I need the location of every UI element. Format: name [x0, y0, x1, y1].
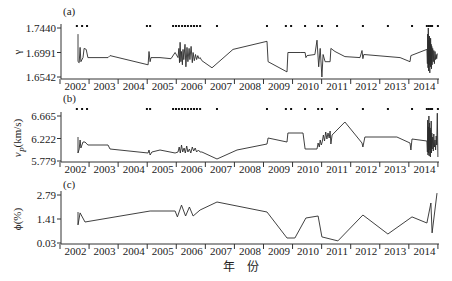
- event-marker: [178, 25, 180, 27]
- event-marker: [146, 25, 148, 27]
- event-marker: [81, 108, 83, 110]
- x-tick-label-2013: 2013: [384, 163, 407, 175]
- event-marker: [175, 108, 177, 110]
- x-tick-label-2014: 2014: [413, 163, 436, 175]
- panel-c-phi: 2.791.410.032002200320042005200620072008…: [11, 178, 439, 257]
- event-marker: [193, 25, 195, 27]
- x-tick-label-2013: 2013: [384, 80, 407, 92]
- event-marker: [149, 25, 151, 27]
- data-series-line: [78, 193, 437, 241]
- x-tick-label-2004: 2004: [123, 245, 146, 257]
- event-marker: [86, 108, 88, 110]
- event-marker: [190, 25, 192, 27]
- y-tick-label: 1.6542: [26, 71, 56, 83]
- x-tick-label-2012: 2012: [355, 80, 377, 92]
- event-marker: [290, 108, 292, 110]
- x-tick-label-2003: 2003: [94, 163, 117, 175]
- y-tick-label: 1.41: [37, 213, 56, 225]
- panel-label: (a): [63, 5, 76, 18]
- event-marker: [184, 108, 186, 110]
- event-marker: [411, 108, 413, 110]
- x-axis-label: 年 份: [223, 260, 259, 274]
- x-tick-label-2009: 2009: [268, 245, 291, 257]
- event-marker: [181, 25, 183, 27]
- x-tick-label-2010: 2010: [297, 163, 320, 175]
- event-marker: [193, 108, 195, 110]
- y-tick-label: 2.79: [37, 189, 57, 201]
- x-tick-label-2011: 2011: [326, 245, 348, 257]
- event-marker: [178, 108, 180, 110]
- y-tick-label: 6.222: [31, 133, 56, 145]
- x-tick-label-2009: 2009: [268, 163, 291, 175]
- x-tick-label-2012: 2012: [355, 163, 377, 175]
- x-tick-label-2008: 2008: [239, 245, 262, 257]
- x-tick-label-2011: 2011: [326, 163, 348, 175]
- x-tick-label-2003: 2003: [94, 245, 117, 257]
- x-tick-label-2005: 2005: [152, 80, 175, 92]
- event-marker: [266, 25, 268, 27]
- y-tick-label: 5.779: [31, 155, 56, 167]
- event-marker: [317, 25, 319, 27]
- event-marker: [216, 108, 218, 110]
- x-tick-label-2010: 2010: [297, 80, 320, 92]
- x-tick-label-2011: 2011: [326, 80, 348, 92]
- event-marker: [437, 25, 439, 27]
- x-tick-label-2006: 2006: [181, 80, 204, 92]
- event-marker: [172, 108, 174, 110]
- event-marker: [426, 108, 428, 110]
- x-tick-label-2008: 2008: [239, 80, 262, 92]
- x-tick-label-2007: 2007: [210, 163, 233, 175]
- event-marker: [285, 25, 287, 27]
- event-marker: [290, 25, 292, 27]
- event-marker: [285, 108, 287, 110]
- time-series-figure: 1.74401.69911.65422002200320042005200620…: [0, 0, 452, 281]
- x-tick-label-2014: 2014: [413, 245, 436, 257]
- event-marker: [428, 25, 430, 27]
- event-marker: [181, 108, 183, 110]
- event-marker: [76, 25, 78, 27]
- event-marker: [190, 108, 192, 110]
- y-tick-label: 0.03: [37, 237, 57, 249]
- panel-label: (b): [63, 92, 76, 105]
- event-marker: [362, 108, 364, 110]
- event-marker: [321, 108, 323, 110]
- x-tick-label-2005: 2005: [152, 163, 175, 175]
- data-series-line: [78, 113, 438, 159]
- event-marker: [304, 108, 306, 110]
- event-marker: [76, 108, 78, 110]
- event-marker: [86, 25, 88, 27]
- event-marker: [317, 108, 319, 110]
- event-marker: [321, 25, 323, 27]
- event-marker: [387, 108, 389, 110]
- chart-canvas: 1.74401.69911.65422002200320042005200620…: [0, 0, 452, 281]
- y-axis-label: vP(km/s): [11, 118, 28, 157]
- x-tick-label-2009: 2009: [268, 80, 291, 92]
- event-marker: [187, 25, 189, 27]
- x-tick-label-2008: 2008: [239, 163, 262, 175]
- y-axis-label: ϕ(%): [11, 208, 24, 231]
- x-tick-label-2012: 2012: [355, 245, 377, 257]
- panel-b-vp: 6.6656.2225.7792002200320042005200620072…: [11, 92, 439, 175]
- event-marker: [196, 108, 198, 110]
- event-marker: [437, 108, 439, 110]
- x-tick-label-2003: 2003: [94, 80, 117, 92]
- event-marker: [196, 25, 198, 27]
- x-tick-label-2007: 2007: [210, 80, 233, 92]
- x-tick-label-2007: 2007: [210, 245, 233, 257]
- panel-a-gamma: 1.74401.69911.65422002200320042005200620…: [11, 5, 439, 92]
- event-marker: [336, 25, 338, 27]
- event-marker: [175, 25, 177, 27]
- x-tick-label-2006: 2006: [181, 245, 204, 257]
- event-marker: [304, 25, 306, 27]
- event-marker: [187, 108, 189, 110]
- event-marker: [81, 25, 83, 27]
- event-marker: [184, 25, 186, 27]
- event-marker: [146, 108, 148, 110]
- x-tick-label-2002: 2002: [65, 80, 87, 92]
- event-marker: [431, 108, 433, 110]
- x-tick-label-2002: 2002: [65, 245, 87, 257]
- x-tick-label-2010: 2010: [297, 245, 320, 257]
- data-series-line: [78, 28, 437, 77]
- event-marker: [431, 25, 433, 27]
- x-tick-label-2005: 2005: [152, 245, 175, 257]
